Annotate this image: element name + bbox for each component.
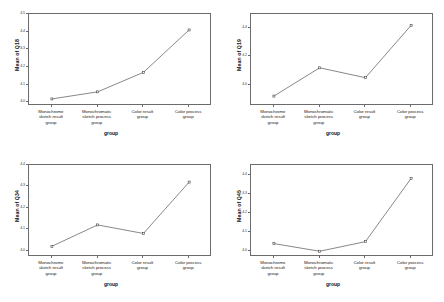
data-point-marker (273, 95, 275, 97)
y-tick-label: 4.1 (20, 226, 25, 230)
data-point-marker (188, 29, 190, 31)
y-tick-label: 4.0 (20, 99, 25, 103)
plot-area (28, 164, 211, 256)
y-tick-label: 4.3 (20, 183, 25, 187)
series-line (29, 14, 211, 105)
x-tick-label: Color processgroup (387, 109, 433, 120)
data-point-marker (188, 181, 190, 183)
chart-panel-bottom-left: Mean of Q344.04.14.24.34.4Monochromesket… (0, 151, 222, 302)
x-axis-title: group (0, 281, 222, 287)
x-tick-label: Monochromaticsketch processgroup (74, 260, 120, 276)
x-tick-mark (319, 256, 320, 258)
y-tick-label: 4.2 (242, 210, 247, 214)
data-point-marker (51, 245, 53, 247)
x-tick-label: Monochromesketch resultgroup (28, 260, 74, 276)
y-tick-label: 4.0 (242, 82, 247, 86)
y-tick-label: 4.2 (242, 53, 247, 57)
x-tick-label: Color resultgroup (341, 260, 387, 271)
data-point-marker (319, 67, 321, 69)
x-tick-mark (51, 256, 52, 258)
x-tick-label-line: group (165, 114, 211, 119)
x-tick-label: Color resultgroup (119, 109, 165, 120)
x-tick-label: Monochromaticsketch processgroup (296, 260, 342, 276)
x-tick-mark (188, 256, 189, 258)
plot-area (250, 164, 433, 256)
x-tick-label-line: group (119, 265, 165, 270)
x-tick-mark (364, 256, 365, 258)
x-tick-label-line: group (250, 120, 296, 125)
x-tick-mark (142, 105, 143, 107)
x-tick-label-line: group (387, 265, 433, 270)
x-tick-label-line: group (341, 114, 387, 119)
x-tick-mark (97, 105, 98, 107)
x-tick-label: Monochromaticsketch processgroup (74, 109, 120, 125)
y-tick-label: 4.2 (20, 64, 25, 68)
x-tick-label: Monochromesketch resultgroup (250, 109, 296, 125)
data-point-marker (142, 232, 144, 234)
x-tick-label: Color processgroup (165, 260, 211, 271)
data-point-marker (364, 77, 366, 79)
x-axis-title: group (0, 130, 222, 136)
series-line (251, 165, 433, 256)
y-tick-label: 4.2 (20, 205, 25, 209)
x-tick-label-line: group (296, 120, 342, 125)
y-tick-label: 4.0 (20, 248, 25, 252)
y-tick-label: 4.4 (20, 29, 25, 33)
y-axis-tick-labels: 4.04.14.24.34.4 (222, 151, 248, 251)
chart-panel-bottom-right: Mean of Q454.04.14.24.34.4Monochromesket… (222, 151, 444, 302)
x-tick-mark (142, 256, 143, 258)
data-point-marker (410, 177, 412, 179)
data-point-marker (319, 250, 321, 252)
x-tick-mark (97, 256, 98, 258)
x-tick-label-line: group (341, 265, 387, 270)
y-tick-label: 4.5 (20, 11, 25, 15)
x-tick-mark (51, 105, 52, 107)
x-tick-mark (188, 105, 189, 107)
x-tick-label: Monochromesketch resultgroup (28, 109, 74, 125)
y-axis-tick-labels: 4.04.14.24.34.44.5 (0, 0, 26, 100)
x-tick-label-line: group (74, 271, 120, 276)
x-tick-label-line: group (28, 120, 74, 125)
series-line (29, 165, 211, 256)
data-point-marker (410, 24, 412, 26)
plot-area (250, 13, 433, 105)
x-tick-mark (364, 105, 365, 107)
x-tick-label: Color processgroup (387, 260, 433, 271)
x-tick-label-line: group (28, 271, 74, 276)
x-tick-label: Monochromesketch resultgroup (250, 260, 296, 276)
data-point-marker (364, 241, 366, 243)
x-tick-label: Monochromaticsketch processgroup (296, 109, 342, 125)
y-axis-tick-labels: 4.04.24.4 (222, 0, 248, 100)
figure-panel-grid: Mean of Q184.04.14.24.34.44.5Monochromes… (0, 0, 444, 302)
x-tick-mark (410, 256, 411, 258)
data-point-marker (97, 91, 99, 93)
x-tick-label-line: group (387, 114, 433, 119)
x-tick-label-line: group (296, 271, 342, 276)
data-point-marker (273, 243, 275, 245)
y-tick-label: 4.3 (242, 191, 247, 195)
series-line (251, 14, 433, 105)
y-tick-label: 4.1 (20, 82, 25, 86)
x-axis-title: group (222, 281, 444, 287)
x-axis-title: group (222, 130, 444, 136)
chart-panel-top-left: Mean of Q184.04.14.24.34.44.5Monochromes… (0, 0, 222, 151)
data-point-marker (97, 224, 99, 226)
x-tick-mark (319, 105, 320, 107)
data-point-marker (51, 98, 53, 100)
x-tick-label: Color processgroup (165, 109, 211, 120)
data-point-marker (142, 71, 144, 73)
x-tick-label-line: group (165, 265, 211, 270)
chart-panel-top-right: Mean of Q194.04.24.4Monochromesketch res… (222, 0, 444, 151)
x-tick-label: Color resultgroup (341, 109, 387, 120)
plot-area (28, 13, 211, 105)
y-axis-tick-labels: 4.04.14.24.34.4 (0, 151, 26, 251)
y-tick-label: 4.4 (242, 172, 247, 176)
y-tick-label: 4.3 (20, 46, 25, 50)
x-tick-label-line: group (250, 271, 296, 276)
x-tick-label-line: group (74, 120, 120, 125)
x-tick-label-line: group (119, 114, 165, 119)
x-tick-mark (410, 105, 411, 107)
y-tick-label: 4.4 (242, 25, 247, 29)
x-tick-mark (273, 256, 274, 258)
y-tick-label: 4.1 (242, 229, 247, 233)
